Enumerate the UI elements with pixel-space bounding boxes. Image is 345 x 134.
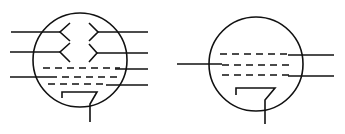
tube-left bbox=[10, 13, 148, 122]
tube-right-cathode bbox=[236, 88, 275, 124]
tube-right-grids bbox=[177, 54, 334, 76]
tube-left-deflection-plates-left bbox=[10, 23, 70, 62]
tube-left-envelope bbox=[33, 13, 127, 107]
tube-right bbox=[177, 17, 334, 124]
tube-right-envelope bbox=[209, 17, 303, 111]
tube-left-grids bbox=[10, 68, 148, 85]
tube-symbols-svg bbox=[0, 0, 345, 134]
tube-left-deflection-plates-right bbox=[89, 23, 148, 62]
